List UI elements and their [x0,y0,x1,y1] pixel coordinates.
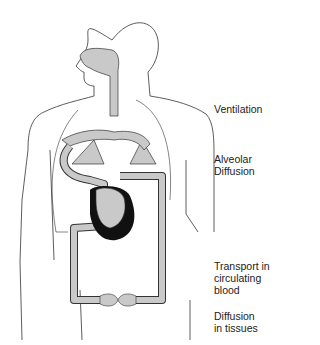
heart [90,186,134,240]
label-ventilation: Ventilation [214,103,262,115]
label-transport: Transport incirculatingblood [214,260,270,296]
tissue-capillaries [100,294,136,306]
label-tissue-diffusion: Diffusionin tissues [214,310,258,334]
alveoli [62,130,156,164]
airway [80,48,119,116]
label-alveolar-diffusion: AlveolarDiffusion [214,153,255,177]
